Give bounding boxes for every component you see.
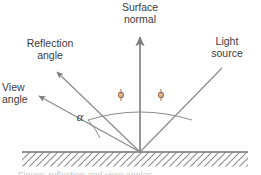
cropped-caption: Figure: reflection and view angles <box>0 170 261 175</box>
label-reflection-angle: Reflection angle <box>8 38 92 61</box>
phi-symbol-incident: ϕ <box>154 88 168 100</box>
hatched-surface <box>22 152 248 167</box>
label-surface-normal: Surface normal <box>98 2 182 25</box>
label-view-angle: View angle <box>2 82 52 105</box>
diagram-canvas: Surface normal Reflection angle View ang… <box>0 0 261 175</box>
label-light-source: Light source <box>196 36 258 59</box>
alpha-symbol: α <box>73 111 87 123</box>
light-source-ray <box>140 68 222 152</box>
view-ray <box>39 96 140 152</box>
phi-symbol-reflected: ϕ <box>114 88 128 100</box>
